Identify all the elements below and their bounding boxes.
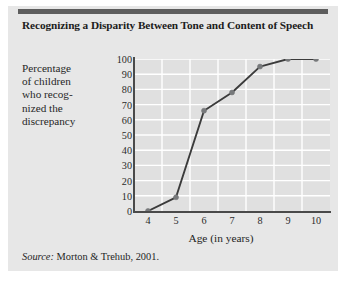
y-axis-label-line: who recog- — [22, 88, 108, 101]
x-tick-label: 8 — [248, 215, 272, 226]
x-tick-label: 5 — [164, 215, 188, 226]
data-point-marker — [230, 90, 235, 95]
y-tick-label: 90 — [112, 69, 132, 80]
source-prefix: Source: — [22, 251, 54, 262]
y-tick-label: 10 — [112, 190, 132, 201]
x-tick-label: 9 — [276, 215, 300, 226]
page-title: Recognizing a Disparity Between Tone and… — [22, 19, 322, 33]
y-axis-line — [133, 57, 135, 213]
y-axis-label-line: discrepancy — [22, 115, 108, 128]
data-point-marker — [174, 195, 179, 200]
y-tick-label: 30 — [112, 160, 132, 171]
x-tick-label: 10 — [304, 215, 328, 226]
data-point-marker — [314, 59, 319, 62]
y-tick-label: 80 — [112, 84, 132, 95]
y-tick-label: 70 — [112, 99, 132, 110]
y-tick-label: 0 — [112, 206, 132, 217]
y-axis-label-line: of children — [22, 75, 108, 88]
y-axis-tick-labels: 1009080706050403020100 — [112, 59, 132, 211]
x-tick-label: 7 — [220, 215, 244, 226]
y-axis-label-line: Percentage — [22, 62, 108, 75]
source-note: Source: Morton & Trehub, 2001. — [22, 251, 159, 262]
y-tick-label: 100 — [112, 54, 132, 65]
x-axis-line — [133, 211, 331, 213]
chart-plot: 1009080706050403020100 45678910 — [112, 59, 330, 221]
gridlines — [134, 59, 330, 211]
x-axis-label: Age (in years) — [112, 232, 330, 244]
data-point-marker — [202, 108, 207, 113]
x-tick-label: 4 — [136, 215, 160, 226]
data-point-marker — [286, 59, 291, 62]
y-axis-label-line: nized the — [22, 102, 108, 115]
y-tick-label: 50 — [112, 130, 132, 141]
line-chart-svg — [134, 59, 330, 211]
x-axis-tick-labels: 45678910 — [134, 215, 330, 229]
plot-area — [134, 59, 330, 211]
y-tick-label: 60 — [112, 114, 132, 125]
y-axis-label: Percentage of children who recog- nized … — [22, 62, 108, 128]
figure-panel: Recognizing a Disparity Between Tone and… — [8, 6, 338, 271]
source-citation: Morton & Trehub, 2001. — [54, 251, 159, 262]
y-tick-label: 40 — [112, 145, 132, 156]
top-rule-divider — [18, 9, 328, 14]
y-tick-label: 20 — [112, 175, 132, 186]
x-tick-label: 6 — [192, 215, 216, 226]
data-point-marker — [258, 64, 263, 69]
